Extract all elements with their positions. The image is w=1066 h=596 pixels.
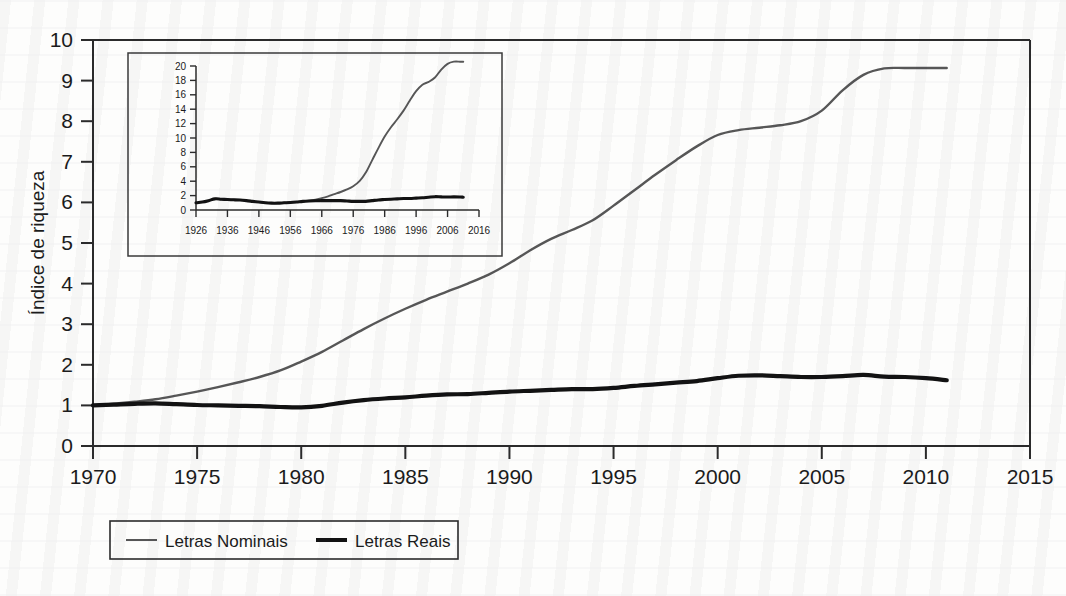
inset-y-tick-label: 18 bbox=[175, 75, 187, 86]
x-tick-label: 1970 bbox=[70, 465, 117, 488]
legend-item-letras-nominais: Letras Nominais bbox=[126, 532, 288, 551]
x-tick-label: 1980 bbox=[278, 465, 325, 488]
x-tick-label: 2000 bbox=[694, 465, 741, 488]
inset-x-tick-label: 1986 bbox=[374, 225, 397, 236]
inset-y-tick-label: 16 bbox=[175, 89, 187, 100]
legend-label-letras-reais: Letras Reais bbox=[355, 532, 450, 551]
inset-x-tick-label: 1966 bbox=[311, 225, 334, 236]
y-tick-label: 3 bbox=[61, 312, 73, 335]
x-tick-label: 1975 bbox=[174, 465, 221, 488]
inset-x-tick-label: 1996 bbox=[405, 225, 428, 236]
inset-y-tick-label: 20 bbox=[175, 61, 187, 72]
inset-x-tick-label: 1946 bbox=[248, 225, 271, 236]
inset-y-tick-label: 0 bbox=[180, 205, 186, 216]
series-line-letras-reais bbox=[93, 375, 947, 408]
x-axis-ticks: 1970197519801985199019952000200520102015 bbox=[70, 446, 1054, 488]
y-tick-label: 4 bbox=[61, 272, 73, 295]
inset-x-tick-label: 1956 bbox=[279, 225, 302, 236]
inset-x-tick-label: 2006 bbox=[436, 225, 459, 236]
y-tick-label: 2 bbox=[61, 353, 73, 376]
y-tick-label: 9 bbox=[61, 69, 73, 92]
legend-item-letras-reais: Letras Reais bbox=[316, 532, 450, 551]
y-tick-label: 6 bbox=[61, 190, 73, 213]
x-tick-label: 2010 bbox=[903, 465, 950, 488]
inset-y-tick-label: 10 bbox=[175, 133, 187, 144]
x-tick-label: 1985 bbox=[382, 465, 429, 488]
inset-x-tick-label: 1926 bbox=[185, 225, 208, 236]
x-tick-label: 2015 bbox=[1007, 465, 1054, 488]
y-tick-label: 1 bbox=[61, 393, 73, 416]
inset-y-tick-label: 12 bbox=[175, 118, 187, 129]
legend: Letras Nominais Letras Reais bbox=[110, 521, 458, 559]
inset-x-tick-label: 1936 bbox=[216, 225, 239, 236]
inset-y-tick-label: 6 bbox=[180, 161, 186, 172]
figure-canvas: 012345678910 197019751980198519901995200… bbox=[0, 0, 1066, 596]
y-axis-ticks: 012345678910 bbox=[50, 28, 93, 457]
x-tick-label: 1995 bbox=[590, 465, 637, 488]
inset-y-tick-label: 14 bbox=[175, 104, 187, 115]
legend-label-letras-nominais: Letras Nominais bbox=[165, 532, 288, 551]
inset-x-tick-label: 2016 bbox=[468, 225, 491, 236]
x-tick-label: 1990 bbox=[486, 465, 533, 488]
y-tick-label: 10 bbox=[50, 28, 73, 51]
inset-y-tick-label: 8 bbox=[180, 147, 186, 158]
inset-y-tick-label: 2 bbox=[180, 190, 186, 201]
y-tick-label: 8 bbox=[61, 109, 73, 132]
wealth-index-line-chart: 012345678910 197019751980198519901995200… bbox=[0, 0, 1066, 596]
y-axis-title: Índice de riqueza bbox=[27, 170, 48, 315]
y-tick-label: 5 bbox=[61, 231, 73, 254]
y-tick-label: 0 bbox=[61, 434, 73, 457]
y-tick-label: 7 bbox=[61, 150, 73, 173]
inset-panel: 02468101214161820 1926193619461956196619… bbox=[128, 53, 502, 256]
inset-x-tick-label: 1976 bbox=[342, 225, 365, 236]
x-tick-label: 2005 bbox=[798, 465, 845, 488]
inset-y-tick-label: 4 bbox=[180, 176, 186, 187]
